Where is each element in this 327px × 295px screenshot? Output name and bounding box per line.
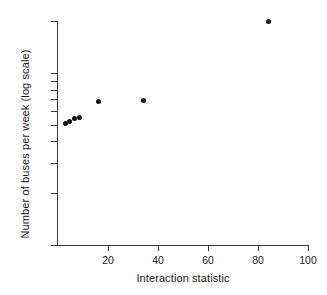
x-tick-label: 40 <box>138 255 178 266</box>
x-tick-label: 60 <box>188 255 228 266</box>
y-axis-title: Number of buses per week (log scale) <box>19 29 31 259</box>
x-tick-mark <box>208 245 209 251</box>
y-tick-mark <box>51 99 57 100</box>
y-tick-mark <box>51 141 57 142</box>
y-tick-mark <box>51 81 57 82</box>
data-point <box>266 19 271 24</box>
x-axis-title: Interaction statistic <box>58 272 308 284</box>
y-tick-mark <box>51 21 57 22</box>
y-tick-mark <box>51 245 57 246</box>
x-tick-label: 20 <box>88 255 128 266</box>
x-axis-line <box>57 245 309 246</box>
y-axis-title-wrapper: Number of buses per week (log scale) <box>2 18 18 248</box>
x-tick-mark <box>108 245 109 251</box>
plot-area <box>58 21 308 245</box>
scatter-plot-figure: 102030405060708090100200 20406080100 Int… <box>0 0 327 295</box>
y-tick-mark <box>51 90 57 91</box>
data-point <box>77 115 82 120</box>
x-tick-label: 80 <box>238 255 278 266</box>
data-point <box>72 116 77 121</box>
data-point <box>67 119 72 124</box>
x-tick-mark <box>308 245 309 251</box>
x-tick-mark <box>158 245 159 251</box>
data-point <box>96 99 101 104</box>
y-tick-mark <box>51 163 57 164</box>
cropped-title-artifact <box>150 0 280 5</box>
y-tick-mark <box>51 125 57 126</box>
x-tick-mark <box>258 245 259 251</box>
y-tick-mark <box>51 111 57 112</box>
x-tick-label: 100 <box>288 255 327 266</box>
y-tick-mark <box>51 193 57 194</box>
data-point <box>141 98 146 103</box>
y-tick-mark <box>51 73 57 74</box>
